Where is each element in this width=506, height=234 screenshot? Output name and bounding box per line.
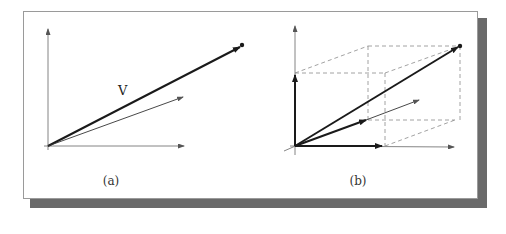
panel-b-caption: (b) [349, 174, 366, 188]
thin-vector [48, 97, 183, 146]
vector-diagram [0, 0, 506, 234]
panel-a-caption: (a) [103, 174, 120, 188]
vector-v-endpoint [458, 44, 462, 48]
vector-v-label: V [118, 83, 127, 98]
vector-v [48, 47, 240, 146]
thin-vector [366, 100, 419, 120]
panel-b [284, 26, 462, 155]
vector-v-endpoint [240, 43, 244, 47]
panel-a [44, 29, 244, 150]
vector-v [295, 47, 458, 146]
